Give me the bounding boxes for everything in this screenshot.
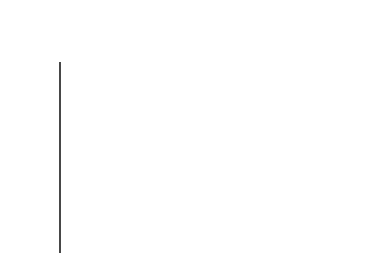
diagram-graphics: [0, 0, 378, 271]
frame-diagram: [0, 0, 378, 271]
